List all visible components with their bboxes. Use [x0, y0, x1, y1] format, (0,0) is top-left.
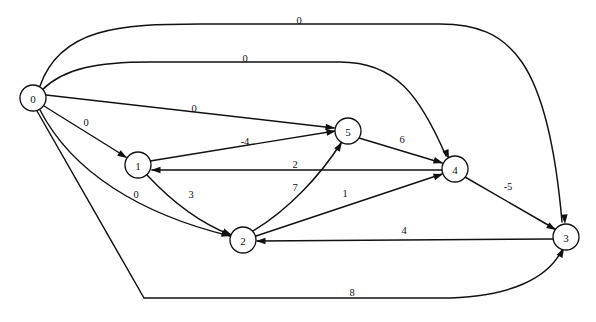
edge-weight-label: 7	[292, 182, 297, 193]
node-label: 2	[240, 235, 246, 247]
edge-weight-label: 6	[399, 134, 404, 145]
arrowhead-icon	[151, 167, 161, 174]
node-label: 3	[563, 232, 569, 244]
graph-edge	[147, 175, 231, 235]
edge-weight-label: -5	[504, 181, 513, 192]
edge-weight-label: 0	[83, 117, 88, 128]
edge-weight-label: 0	[133, 189, 138, 200]
edge-weight-label: 2	[292, 159, 297, 170]
edge-weight-label: 0	[242, 53, 247, 64]
node-label: 4	[452, 164, 458, 176]
edge-weight-label: 0	[191, 103, 196, 114]
graph-edge	[46, 95, 334, 128]
node-label: 1	[135, 160, 141, 172]
graph-canvas-svg: 000008-437162-54 012345	[0, 0, 596, 322]
edges-layer	[37, 24, 562, 298]
arrowhead-icon	[256, 238, 266, 245]
graph-edge	[44, 106, 126, 157]
edge-weight-label: 3	[188, 189, 193, 200]
graph-edge	[37, 111, 562, 298]
edge-weight-label: 4	[401, 225, 407, 236]
edge-weight-label: 1	[342, 188, 347, 199]
graph-edge	[256, 174, 442, 236]
edge-weight-label: 0	[296, 15, 301, 26]
edge-weight-label: 8	[349, 287, 354, 298]
edge-weight-label: -4	[241, 136, 250, 147]
graph-figure: 000008-437162-54 012345	[0, 0, 596, 322]
graph-edge	[257, 239, 553, 241]
node-label: 0	[30, 93, 36, 105]
node-label: 5	[345, 126, 351, 138]
